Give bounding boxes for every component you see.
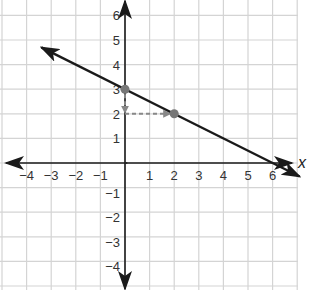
rise-run-annotations <box>125 94 169 114</box>
x-tick-label: 2 <box>171 168 178 183</box>
x-tick-label: −2 <box>68 168 83 183</box>
plotted-point <box>170 109 179 118</box>
x-tick-label: 4 <box>220 168 227 183</box>
line-left-arrow <box>41 47 170 112</box>
coordinate-plane: −4−3−2−1123456−4−3−2−1123456 x <box>0 0 313 290</box>
x-tick-label: −4 <box>19 168 34 183</box>
x-axis-label: x <box>297 154 307 171</box>
y-tick-label: 2 <box>113 107 120 122</box>
y-tick-label: 4 <box>113 58 120 73</box>
y-tick-label: −1 <box>105 186 120 201</box>
line-right-arrow <box>171 112 300 177</box>
y-tick-label: 1 <box>113 131 120 146</box>
x-tick-label: 5 <box>244 168 251 183</box>
y-tick-label: −2 <box>105 210 120 225</box>
plotted-point <box>121 85 130 94</box>
y-tick-label: 6 <box>113 8 120 23</box>
x-tick-label: 3 <box>195 168 202 183</box>
y-tick-label: 5 <box>113 33 120 48</box>
x-tick-label: −1 <box>93 168 108 183</box>
y-tick-label: −4 <box>105 259 120 274</box>
x-tick-label: −3 <box>44 168 59 183</box>
x-tick-label: 6 <box>269 168 276 183</box>
tick-labels: −4−3−2−1123456−4−3−2−1123456 <box>19 8 276 274</box>
grid-lines <box>0 0 298 290</box>
x-tick-label: 1 <box>146 168 153 183</box>
y-tick-label: −3 <box>105 235 120 250</box>
